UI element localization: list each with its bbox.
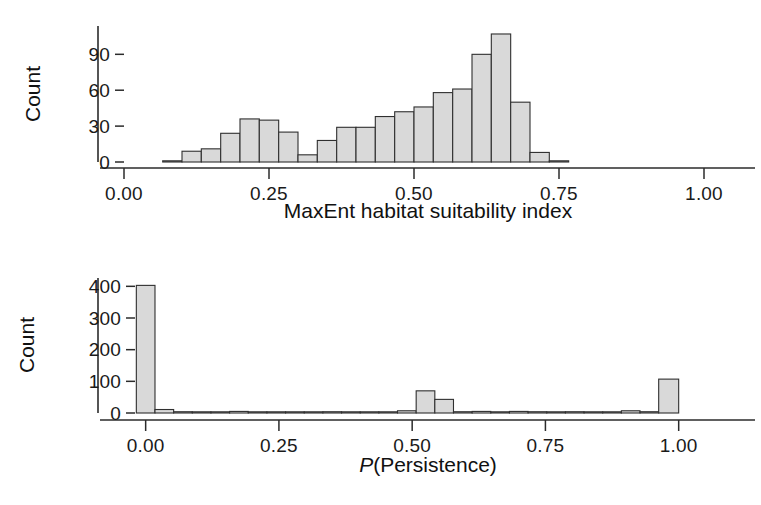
bottom-x-ticks-group xyxy=(146,420,679,431)
histogram-bar xyxy=(174,412,193,413)
histogram-bar xyxy=(416,391,435,413)
histogram-bar xyxy=(323,412,342,413)
histogram-bar xyxy=(279,132,298,162)
histogram-bar xyxy=(356,127,375,162)
histogram-bar xyxy=(435,399,454,413)
top-x-ticks-group xyxy=(124,168,704,179)
histogram-bar xyxy=(155,410,174,413)
histogram-bar xyxy=(549,161,568,162)
y-tick-label: 60 xyxy=(88,80,110,101)
histogram-bar xyxy=(640,412,659,413)
histogram-bar xyxy=(472,54,491,162)
top-y-ticks-group xyxy=(115,54,124,162)
histogram-bar xyxy=(201,149,220,162)
histogram-bar xyxy=(248,412,267,413)
panel-persistence-histogram: 0100200300400 0.000.250.500.751.00 Count… xyxy=(0,250,761,505)
x-tick-label: 0.75 xyxy=(527,435,565,456)
y-tick-label: 200 xyxy=(89,339,121,360)
figure-two-histograms: 0306090 0.000.250.500.751.00 Count MaxEn… xyxy=(0,0,761,505)
top-y-tick-labels-group: 0306090 xyxy=(88,44,110,173)
y-tick-label: 400 xyxy=(89,276,121,297)
x-tick-label: 0.25 xyxy=(250,183,288,204)
histogram-bar xyxy=(528,412,547,413)
histogram-bar xyxy=(259,120,278,162)
histogram-bar xyxy=(379,412,398,413)
histogram-bar xyxy=(221,133,240,162)
histogram-bar xyxy=(509,411,528,413)
histogram-bar xyxy=(342,412,361,413)
histogram-bar xyxy=(584,412,603,413)
histogram-bar xyxy=(192,412,211,413)
histogram-bar xyxy=(211,412,230,413)
histogram-bar xyxy=(398,411,417,413)
y-tick-label: 0 xyxy=(110,403,121,424)
x-tick-label: 1.00 xyxy=(660,435,698,456)
histogram-bar xyxy=(317,140,336,162)
histogram-bar xyxy=(453,89,472,162)
top-y-axis-title: Count xyxy=(21,66,44,122)
histogram-bar xyxy=(182,151,201,162)
top-chart-svg: 0306090 0.000.250.500.751.00 Count MaxEn… xyxy=(0,0,761,250)
y-tick-label: 0 xyxy=(99,152,110,173)
bottom-y-ticks-group xyxy=(126,286,135,413)
histogram-bar xyxy=(240,119,259,162)
histogram-bar xyxy=(472,411,491,413)
x-tick-label: 0.25 xyxy=(260,435,298,456)
histogram-bar xyxy=(414,107,433,162)
histogram-bar xyxy=(491,34,510,162)
histogram-bar xyxy=(453,412,472,413)
histogram-bar xyxy=(565,412,584,413)
histogram-bar xyxy=(621,411,640,413)
histogram-bar xyxy=(547,412,566,413)
histogram-bar xyxy=(511,102,530,162)
histogram-bar xyxy=(230,411,249,413)
histogram-bar xyxy=(659,379,679,413)
x-tick-label: 0.00 xyxy=(127,435,165,456)
panel-maxent-histogram: 0306090 0.000.250.500.751.00 Count MaxEn… xyxy=(0,0,761,250)
bottom-bars-group xyxy=(136,285,678,413)
top-x-axis-title: MaxEnt habitat suitability index xyxy=(284,199,573,222)
histogram-bar xyxy=(136,285,155,413)
histogram-bar xyxy=(375,117,394,162)
bottom-x-axis-title-rest: (Persistence) xyxy=(373,453,497,476)
x-tick-label: 1.00 xyxy=(685,183,723,204)
histogram-bar xyxy=(433,93,452,162)
top-bars-group xyxy=(163,34,569,162)
histogram-bar xyxy=(337,127,356,162)
y-tick-label: 100 xyxy=(89,371,121,392)
y-tick-label: 300 xyxy=(89,308,121,329)
bottom-chart-svg: 0100200300400 0.000.250.500.751.00 Count… xyxy=(0,250,761,505)
x-tick-label: 0.00 xyxy=(105,183,143,204)
histogram-bar xyxy=(603,412,622,413)
histogram-bar xyxy=(304,412,323,413)
histogram-bar xyxy=(286,412,305,413)
bottom-x-axis-title-italic: P xyxy=(359,453,373,476)
y-tick-label: 90 xyxy=(88,44,110,65)
bottom-x-axis-title: P(Persistence) xyxy=(359,453,497,476)
y-tick-label: 30 xyxy=(88,116,110,137)
bottom-y-axis-title: Count xyxy=(15,317,38,373)
histogram-bar xyxy=(360,412,379,413)
bottom-y-tick-labels-group: 0100200300400 xyxy=(89,276,121,424)
histogram-bar xyxy=(530,152,549,162)
histogram-bar xyxy=(163,161,182,162)
histogram-bar xyxy=(491,412,510,413)
histogram-bar xyxy=(298,155,317,162)
histogram-bar xyxy=(395,112,414,162)
histogram-bar xyxy=(267,412,286,413)
